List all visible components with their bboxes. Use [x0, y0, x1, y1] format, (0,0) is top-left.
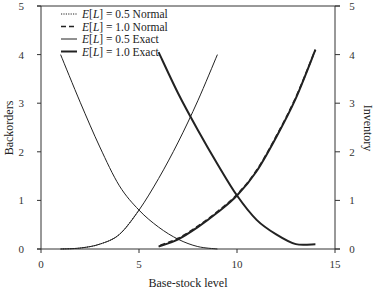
y-tick-label-left: 4	[19, 49, 25, 61]
legend-label: E[L] = 0.5 Normal	[81, 8, 168, 20]
y-tick-label-left: 0	[19, 243, 25, 255]
y-tick-label-left: 3	[19, 97, 25, 109]
y-ticks-left: 012345	[19, 0, 42, 255]
series-layer	[61, 50, 316, 249]
series-line	[159, 52, 316, 245]
y-tick-label-right: 0	[349, 243, 355, 255]
x-tick-label: 5	[136, 258, 142, 270]
y-tick-label-right: 1	[349, 194, 355, 206]
legend-label: E[L] = 0.5 Exact	[81, 33, 160, 45]
y-tick-label-right: 3	[349, 97, 355, 109]
x-tick-label: 0	[38, 258, 44, 270]
series-line	[159, 50, 316, 247]
y-tick-label-right: 5	[349, 0, 355, 12]
y-tick-label-left: 1	[19, 194, 25, 206]
right-y-axis-title: Inventory	[361, 105, 374, 152]
series-line	[61, 210, 139, 249]
chart: 051015 012345 012345 Base-stock level Ba…	[0, 0, 374, 292]
legend-label: E[L] = 1.0 Exact	[81, 46, 160, 58]
series-line	[61, 55, 218, 249]
y-tick-label-left: 5	[19, 0, 25, 12]
x-axis-title: Base-stock level	[149, 276, 229, 290]
y-tick-label-left: 2	[19, 146, 25, 158]
x-ticks: 051015	[38, 249, 341, 270]
y-tick-label-right: 2	[349, 146, 355, 158]
x-tick-label: 15	[330, 258, 342, 270]
y-ticks-right: 012345	[335, 0, 355, 255]
series-line	[161, 50, 316, 245]
legend: E[L] = 0.5 NormalE[L] = 1.0 NormalE[L] =…	[61, 8, 168, 58]
x-tick-label: 10	[232, 258, 244, 270]
series-line	[61, 55, 218, 249]
legend-label: E[L] = 1.0 Normal	[81, 21, 168, 33]
left-y-axis-title: Backorders	[2, 100, 16, 155]
y-tick-label-right: 4	[349, 49, 355, 61]
